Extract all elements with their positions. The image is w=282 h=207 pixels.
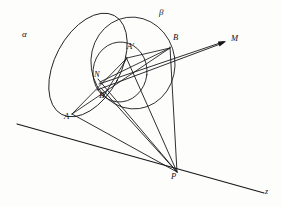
line-P-to-B-prime	[101, 88, 177, 172]
label-point-M: M	[231, 34, 238, 43]
diagram-canvas	[0, 0, 282, 207]
line-P-to-A-prime	[126, 57, 177, 172]
label-conic-beta: β	[159, 8, 163, 17]
rays-to-M	[97, 41, 226, 90]
label-point-N: N	[94, 70, 100, 79]
label-point-B-prime: B'	[99, 91, 106, 100]
chord-A-prime-to-B-prime	[103, 58, 127, 97]
axis-line-z	[17, 124, 264, 193]
label-point-A-prime: A'	[127, 42, 134, 51]
label-axis-z: z	[265, 188, 268, 196]
line-P-to-B	[170, 47, 177, 172]
ray-N-to-M	[99, 42, 223, 84]
label-point-B: B	[173, 33, 178, 42]
conic-alpha-ellipse	[33, 0, 144, 130]
label-point-A: A	[64, 112, 69, 121]
label-conic-alpha: α	[22, 30, 27, 39]
line-P-to-A	[72, 114, 177, 172]
conic-group	[33, 0, 181, 130]
label-point-P: P	[171, 172, 176, 181]
geometry-diagram: α β A A' B B' N M P z	[0, 0, 282, 207]
